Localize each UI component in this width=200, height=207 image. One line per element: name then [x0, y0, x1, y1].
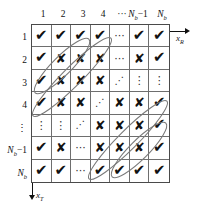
- x-T-axis-label: xT: [36, 190, 43, 202]
- cell-glyph-hdots: ···: [114, 53, 125, 64]
- matrix-cell-r5-c7: ✔: [149, 115, 169, 137]
- matrix-cell-r4-c5: ✘: [110, 92, 130, 114]
- cell-glyph-check: ✔: [35, 28, 48, 43]
- cell-glyph-check: ✔: [35, 50, 48, 65]
- matrix-cell-r2-c2: ✘: [52, 47, 72, 69]
- cell-glyph-hdots: ···: [75, 165, 86, 176]
- matrix-cell-r3-c4: ✘: [91, 70, 111, 92]
- matrix-cell-r3-c3: ✘: [71, 70, 91, 92]
- matrix-cell-r7-c4: ✔: [91, 160, 111, 182]
- beam-pair-matrix-figure: 1 2 3 4 ··· Nb−1 Nb 1 2 3 4 ⋮ Nb−1 Nb ✔✔…: [0, 0, 200, 207]
- matrix-cell-r6-c4: ✘: [91, 137, 111, 159]
- cell-glyph-vdots: ⋮: [55, 120, 66, 131]
- cell-glyph-cross: ✘: [55, 141, 66, 154]
- matrix-cell-r1-c1: ✔: [32, 25, 52, 47]
- cell-glyph-cross: ✘: [55, 52, 66, 65]
- cell-glyph-vdots: ⋮: [36, 120, 47, 131]
- matrix-grid: ✔✔✔✔···✔✔✔✘✘✘···✘✔✔✘✘✘⋰⋮⋮✔✘✘⋰✘✘✔⋮⋮⋰✘✘✘✔✔…: [31, 24, 170, 183]
- matrix-cell-r7-c1: ✔: [32, 160, 52, 182]
- cell-glyph-check: ✔: [94, 163, 107, 178]
- cell-glyph-check: ✔: [153, 95, 166, 110]
- cell-glyph-check: ✔: [35, 163, 48, 178]
- row-header-3: 3: [0, 78, 29, 88]
- matrix-cell-r7-c5: ✔: [110, 160, 130, 182]
- cell-glyph-check: ✔: [55, 28, 68, 43]
- cell-glyph-check: ✔: [133, 28, 146, 43]
- matrix-cell-r1-c2: ✔: [52, 25, 72, 47]
- cell-glyph-check: ✔: [94, 28, 107, 43]
- cell-glyph-check: ✔: [113, 163, 126, 178]
- cell-glyph-cross: ✘: [134, 52, 145, 65]
- matrix-cell-r5-c1: ⋮: [32, 115, 52, 137]
- cell-glyph-ddots: ⋰: [95, 98, 105, 108]
- matrix-cell-r6-c7: ✔: [149, 137, 169, 159]
- cell-glyph-check: ✔: [153, 28, 166, 43]
- cell-glyph-cross: ✘: [55, 74, 66, 87]
- matrix-cell-r5-c3: ⋰: [71, 115, 91, 137]
- cell-glyph-hdots: ···: [114, 30, 125, 41]
- matrix-cell-r6-c6: ✘: [130, 137, 150, 159]
- cell-glyph-cross: ✘: [95, 52, 106, 65]
- cell-glyph-hdots: ···: [75, 142, 86, 153]
- cell-glyph-cross: ✘: [75, 96, 86, 109]
- x-T-axis-arrow: [31, 183, 33, 201]
- row-header-2: 2: [0, 55, 29, 65]
- matrix-cell-r3-c6: ⋮: [130, 70, 150, 92]
- cell-glyph-cross: ✘: [95, 119, 106, 132]
- matrix-cell-r3-c1: ✔: [32, 70, 52, 92]
- matrix-cell-r5-c4: ✘: [91, 115, 111, 137]
- column-header-nb: Nb: [150, 9, 174, 21]
- matrix-cell-r7-c2: ✔: [52, 160, 72, 182]
- matrix-cell-r2-c4: ✘: [91, 47, 111, 69]
- matrix-cell-r4-c3: ✘: [71, 92, 91, 114]
- x-T-arrowhead-icon: [29, 195, 35, 200]
- cell-glyph-check: ✔: [35, 73, 48, 88]
- cell-glyph-cross: ✘: [95, 141, 106, 154]
- matrix-cell-r2-c7: ✔: [149, 47, 169, 69]
- matrix-cell-r1-c6: ✔: [130, 25, 150, 47]
- matrix-cell-r3-c5: ⋰: [110, 70, 130, 92]
- row-header-4: 4: [0, 100, 29, 110]
- matrix-cell-r7-c7: ✔: [149, 160, 169, 182]
- matrix-cell-r1-c4: ✔: [91, 25, 111, 47]
- cell-glyph-ddots: ⋰: [115, 76, 125, 86]
- cell-glyph-cross: ✘: [55, 96, 66, 109]
- cell-glyph-cross: ✘: [75, 52, 86, 65]
- cell-glyph-vdots: ⋮: [134, 75, 145, 86]
- matrix-cell-r2-c5: ···: [110, 47, 130, 69]
- matrix-cell-r2-c1: ✔: [32, 47, 52, 69]
- matrix-cell-r6-c5: ✘: [110, 137, 130, 159]
- cell-glyph-cross: ✘: [114, 96, 125, 109]
- row-header-1: 1: [0, 32, 29, 42]
- matrix-cell-r1-c3: ✔: [71, 25, 91, 47]
- cell-glyph-check: ✔: [35, 140, 48, 155]
- cell-glyph-cross: ✘: [95, 74, 106, 87]
- cell-glyph-vdots: ⋮: [154, 75, 165, 86]
- matrix-cell-r5-c6: ✘: [130, 115, 150, 137]
- cell-glyph-cross: ✘: [114, 119, 125, 132]
- x-R-arrowhead-icon: [185, 28, 190, 34]
- cell-glyph-check: ✔: [153, 117, 166, 132]
- cell-glyph-cross: ✘: [134, 119, 145, 132]
- cell-glyph-cross: ✘: [75, 74, 86, 87]
- matrix-cell-r7-c6: ✔: [130, 160, 150, 182]
- matrix-cell-r4-c6: ✘: [130, 92, 150, 114]
- cell-glyph-check: ✔: [153, 50, 166, 65]
- matrix-cell-r6-c1: ✔: [32, 137, 52, 159]
- matrix-cell-r4-c7: ✔: [149, 92, 169, 114]
- x-R-axis-arrow: [170, 30, 192, 32]
- matrix-cell-r3-c2: ✘: [52, 70, 72, 92]
- cell-glyph-check: ✔: [153, 163, 166, 178]
- cell-glyph-check: ✔: [74, 28, 87, 43]
- cell-glyph-check: ✔: [133, 163, 146, 178]
- matrix-cell-r4-c2: ✘: [52, 92, 72, 114]
- cell-glyph-cross: ✘: [134, 141, 145, 154]
- matrix-cell-r5-c5: ✘: [110, 115, 130, 137]
- column-header-nb-minus-1: Nb−1: [123, 9, 153, 21]
- cell-glyph-cross: ✘: [134, 96, 145, 109]
- cell-glyph-check: ✔: [35, 95, 48, 110]
- row-header-ellipsis: ⋮: [0, 122, 29, 133]
- cell-glyph-cross: ✘: [114, 141, 125, 154]
- matrix-cell-r1-c7: ✔: [149, 25, 169, 47]
- x-R-axis-label: xR: [176, 33, 184, 45]
